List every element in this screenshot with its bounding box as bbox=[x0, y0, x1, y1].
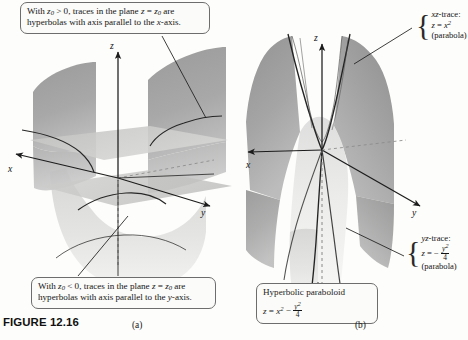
callout-positive-line1: With z0 > 0, traces in the plane z = z0 … bbox=[27, 6, 203, 17]
brace-icon: { bbox=[416, 13, 430, 36]
panel-b-surface: x y z bbox=[245, 32, 420, 302]
brace-icon: { bbox=[406, 240, 420, 263]
axis-label-y-a: y bbox=[200, 207, 206, 218]
axis-label-x-b: x bbox=[245, 159, 251, 170]
yz-trace-kind: (parabola) bbox=[421, 261, 456, 271]
xz-trace-title: xz-trace: bbox=[431, 9, 466, 19]
callout-positive-z-traces: With z0 > 0, traces in the plane z = z0 … bbox=[20, 2, 210, 34]
saddle-wing-right-lower-b bbox=[356, 196, 394, 268]
annotation-yz-trace: { yz-trace: z = − y24 (parabola) bbox=[406, 233, 457, 271]
equation-box-hyperbolic-paraboloid: Hyperbolic paraboloid z = x2 − y24 bbox=[256, 283, 378, 324]
callout-negative-line2: hyperbolas with axis parallel to the y-a… bbox=[38, 292, 209, 303]
axis-label-y-b: y bbox=[411, 207, 417, 218]
callout-negative-z-traces: With z0 < 0, traces in the plane z = z0 … bbox=[31, 277, 216, 309]
panel-a-surface: x y z bbox=[7, 40, 232, 289]
axis-label-z-b: z bbox=[313, 32, 318, 43]
equation-box-equation: z = x2 − y24 bbox=[263, 301, 371, 319]
callout-positive-line2: hyperbolas with axis parallel to the x-a… bbox=[27, 17, 203, 28]
annotation-xz-trace: { xz-trace: z = x2 (parabola) bbox=[416, 9, 467, 41]
figure-12-16: x y z bbox=[0, 0, 468, 340]
xz-trace-kind: (parabola) bbox=[431, 30, 466, 40]
yz-trace-equation: z = − y24 bbox=[421, 243, 456, 261]
saddle-wing-left-lower-b bbox=[246, 190, 280, 268]
figure-caption: FIGURE 12.16 bbox=[3, 316, 79, 328]
xz-trace-equation: z = x2 bbox=[431, 19, 466, 30]
axis-label-x-a: x bbox=[7, 163, 13, 174]
saddle-wing-left-b bbox=[246, 36, 300, 200]
callout-negative-line1: With z0 < 0, traces in the plane z = z0 … bbox=[38, 281, 209, 292]
equation-box-title: Hyperbolic paraboloid bbox=[263, 287, 371, 299]
panel-letter-b: (b) bbox=[355, 320, 366, 330]
wing-edge-left-b bbox=[300, 38, 312, 128]
panel-letter-a: (a) bbox=[132, 320, 142, 330]
yz-trace-title: yz-trace: bbox=[421, 233, 456, 243]
axis-label-z-a: z bbox=[109, 40, 114, 51]
